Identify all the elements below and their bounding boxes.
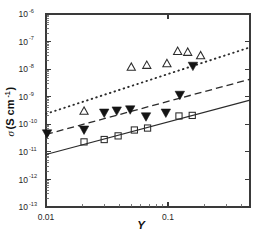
y-tick-label: 10	[19, 147, 29, 157]
y-tick-label-exponent: -9	[29, 91, 34, 97]
marker-filled-down-triangle	[100, 109, 109, 117]
y-axis-title-units: (S cm	[4, 99, 16, 129]
y-axis-title-sigma: σ	[4, 131, 16, 137]
plot-frame	[46, 14, 250, 207]
y-tick-label-exponent: -13	[29, 201, 37, 207]
x-tick-label: 0.01	[38, 212, 55, 222]
y-tick-label-exponent: -6	[29, 8, 34, 14]
marker-open-triangle	[196, 51, 204, 58]
marker-filled-down-triangle	[188, 62, 197, 70]
axes	[46, 14, 250, 207]
marker-filled-down-triangle	[141, 113, 150, 121]
marker-open-triangle	[127, 63, 135, 70]
marker-open-triangle	[143, 61, 151, 68]
dashed-fit-line	[46, 79, 250, 134]
y-axis-title: σ(S cm-1)	[4, 87, 16, 137]
y-tick-label-exponent: -10	[29, 118, 37, 124]
y-tick-label: 10	[19, 92, 29, 102]
marker-open-triangle	[184, 48, 192, 55]
y-tick-label: 10	[19, 175, 29, 185]
x-tick-label: 0.1	[162, 212, 174, 222]
y-tick-label: 10	[19, 64, 29, 74]
chart-canvas: 10-610-710-810-910-1010-1110-1210-130.01…	[0, 0, 258, 241]
x-axis-title: Y	[137, 219, 146, 231]
marker-open-triangle	[174, 47, 182, 54]
marker-filled-down-triangle	[175, 91, 184, 99]
y-tick-label: 10	[19, 202, 29, 212]
marker-filled-down-triangle	[42, 130, 51, 138]
conductivity-vs-y-chart: 10-610-710-810-910-1010-1110-1210-130.01…	[0, 0, 258, 241]
y-tick-label: 10	[19, 37, 29, 47]
y-tick-label: 10	[19, 9, 29, 19]
data-markers	[42, 47, 204, 145]
y-tick-label-exponent: -11	[29, 146, 37, 152]
y-tick-label-exponent: -7	[29, 35, 34, 41]
y-tick-label: 10	[19, 119, 29, 129]
y-axis-title-paren: )	[4, 87, 16, 91]
marker-open-triangle	[163, 59, 171, 66]
marker-filled-down-triangle	[161, 109, 170, 117]
y-tick-label-exponent: -8	[29, 63, 34, 69]
y-tick-label-exponent: -12	[29, 173, 37, 179]
marker-filled-down-triangle	[112, 107, 121, 115]
dotted-fit-line	[46, 47, 250, 114]
tick-labels: 10-610-710-810-910-1010-1110-1210-130.01…	[19, 8, 175, 222]
solid-fit-line	[46, 100, 250, 154]
marker-open-triangle	[80, 107, 88, 114]
y-axis-title-exponent: -1	[4, 91, 11, 97]
marker-filled-down-triangle	[79, 126, 88, 134]
